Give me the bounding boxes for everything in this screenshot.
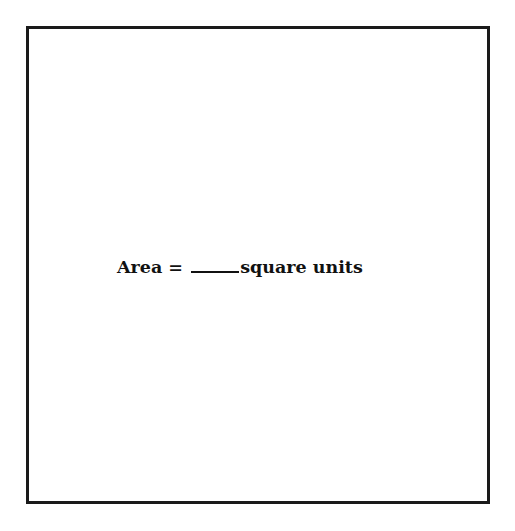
- answer-blank[interactable]: [191, 257, 239, 273]
- area-label: Area =: [117, 257, 183, 277]
- area-prompt: Area = square units: [117, 257, 387, 277]
- units-label: square units: [240, 257, 363, 277]
